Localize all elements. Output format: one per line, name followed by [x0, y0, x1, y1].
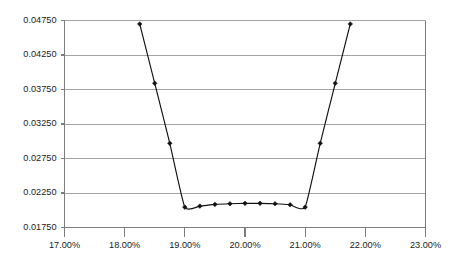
- data-point-marker: [167, 141, 172, 146]
- data-point-marker: [198, 204, 203, 209]
- data-point-marker: [243, 201, 248, 206]
- y-tick-label: 0.03750: [23, 84, 56, 94]
- data-point-marker: [152, 81, 157, 86]
- line-chart: 0.017500.022500.027500.032500.037500.042…: [0, 0, 457, 264]
- data-point-marker: [213, 202, 218, 207]
- x-tick-label: 23.00%: [410, 240, 441, 250]
- chart-container: 0.017500.022500.027500.032500.037500.042…: [0, 0, 457, 264]
- y-tick-label: 0.04750: [23, 15, 56, 25]
- data-point-marker: [318, 141, 323, 146]
- x-tick-label: 21.00%: [290, 240, 321, 250]
- x-tick-label: 18.00%: [109, 240, 140, 250]
- y-axis-labels-group: 0.017500.022500.027500.032500.037500.042…: [23, 15, 56, 232]
- y-tick-label: 0.03250: [23, 118, 56, 128]
- data-series-group: [137, 22, 352, 210]
- x-tick-label: 17.00%: [49, 240, 80, 250]
- x-tick-label: 19.00%: [169, 240, 200, 250]
- data-point-marker: [273, 201, 278, 206]
- data-point-marker: [228, 201, 233, 206]
- y-tick-label: 0.04250: [23, 49, 56, 59]
- series-line: [140, 24, 351, 209]
- y-tick-marks-group: [61, 21, 65, 228]
- x-tick-label: 20.00%: [229, 240, 260, 250]
- data-point-marker: [333, 81, 338, 86]
- y-tick-label: 0.01750: [23, 222, 56, 232]
- y-tick-label: 0.02750: [23, 153, 56, 163]
- data-point-marker: [348, 22, 353, 27]
- x-axis-labels-group: 17.00%18.00%19.00%20.00%21.00%22.00%23.0…: [49, 240, 441, 250]
- y-tick-label: 0.02250: [23, 187, 56, 197]
- x-tick-label: 22.00%: [350, 240, 381, 250]
- x-tick-marks-group: [65, 228, 426, 237]
- data-point-marker: [137, 22, 142, 27]
- gridlines-group: [65, 21, 426, 228]
- data-point-marker: [258, 201, 263, 206]
- data-point-marker: [288, 202, 293, 207]
